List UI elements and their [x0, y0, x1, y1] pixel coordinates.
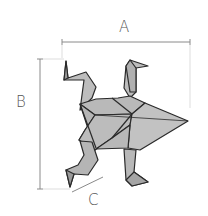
dimension-c-line — [72, 177, 103, 192]
dimension-c-label: C — [88, 193, 98, 208]
dimension-b-label: B — [16, 95, 26, 110]
origami-frog-diagram: A B C — [0, 0, 208, 216]
frog-illustration — [0, 0, 208, 216]
dimension-a-label: A — [119, 20, 129, 35]
frog-body — [64, 60, 188, 187]
